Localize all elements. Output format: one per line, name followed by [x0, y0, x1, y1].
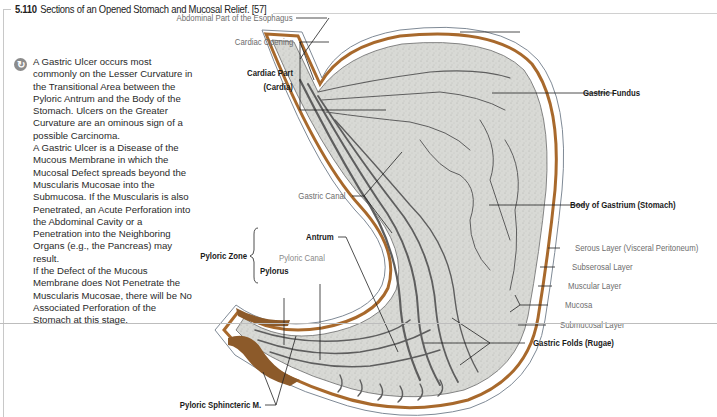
label-antrum: Antrum	[306, 231, 334, 242]
label-gastric-folds: Gastric Folds (Rugae)	[533, 337, 614, 348]
label-muscular-layer: Muscular Layer	[568, 280, 621, 291]
label-pyloric-canal: Pyloric Canal	[279, 252, 325, 263]
label-gastric-canal: Gastric Canal	[299, 190, 346, 201]
label-pyloric-sphincter: Pyloric Sphincteric M.	[180, 399, 261, 410]
label-pylorus: Pylorus	[260, 265, 289, 276]
page-rule	[0, 323, 717, 324]
label-cardiac-opening: Cardiac Opening	[235, 36, 293, 47]
label-gastric-fundus: Gastric Fundus	[583, 87, 640, 98]
label-serous-layer: Serous Layer (Visceral Peritoneum)	[575, 242, 698, 253]
label-subserosal-layer: Subserosal Layer	[572, 261, 633, 272]
label-body-of-gastrium: Body of Gastrium (Stomach)	[570, 199, 676, 210]
label-pyloric-zone: Pyloric Zone	[200, 250, 247, 261]
label-mucosa: Mucosa	[565, 299, 592, 310]
label-cardiac-part: Cardiac Part	[247, 67, 293, 78]
label-cardia: (Cardia)	[264, 81, 293, 92]
label-submucosal-layer: Submucosal Layer	[560, 319, 625, 330]
label-abdominal-esophagus: Abdominal Part of the Esophagus	[177, 12, 293, 23]
